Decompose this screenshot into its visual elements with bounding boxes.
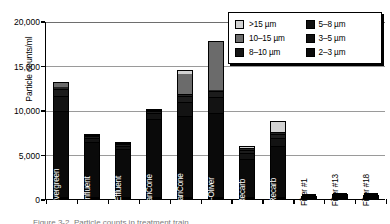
x-axis-category-label: Filter #18: [362, 174, 370, 206]
bar-group[interactable]: RM Effluent: [108, 22, 139, 199]
x-axis-tick-mark: [355, 199, 356, 204]
x-axis-category-label: W. ClariCone: [177, 173, 185, 219]
legend-swatch-icon: [235, 48, 244, 57]
y-axis-tick-label: 20,000: [0, 17, 40, 27]
bar-segment: [54, 97, 68, 112]
bar-segment: [54, 90, 68, 98]
bar-group[interactable]: E. ClariCone: [139, 22, 170, 199]
x-axis-category-label: RM Influent: [84, 176, 92, 216]
x-axis-tick-mark: [262, 199, 263, 204]
bar-group[interactable]: RM Influent: [77, 22, 108, 199]
x-axis-tick-mark: [108, 199, 109, 204]
legend-row: 10–15 µm 3–5 µm: [235, 31, 376, 45]
legend-label: >15 µm: [249, 20, 276, 29]
x-axis-category-label: W. Recarb: [270, 178, 278, 214]
bar-segment: [178, 74, 192, 96]
bar-group[interactable]: W. ClariCone: [170, 22, 201, 199]
legend-item-3-5: 3–5 µm: [306, 34, 377, 43]
x-axis-tick-mark: [170, 199, 171, 204]
x-axis-category-label: E. ClariCone: [146, 174, 154, 218]
legend-swatch-icon: [306, 48, 315, 57]
legend-item-2-3: 2–3 µm: [306, 48, 377, 57]
x-axis-tick-mark: [386, 199, 387, 204]
stacked-bar[interactable]: [208, 41, 224, 199]
bar-group[interactable]: Dorr-Oliver: [201, 22, 232, 199]
bar-segment: [271, 122, 285, 132]
chart-legend: >15 µm 5–8 µm 10–15 µm 3–5 µm 8–10 µm: [228, 12, 382, 64]
x-axis-category-label: Filter #13: [331, 174, 339, 206]
x-axis-tick-mark: [231, 199, 232, 204]
x-axis-category-label: Lake Evergreen: [53, 168, 61, 223]
x-axis-category-label: Filter #1: [301, 178, 309, 206]
legend-swatch-icon: [235, 20, 244, 29]
bar-segment: [209, 98, 223, 114]
figure-caption: Figure 3-2. Particle counts in treatment…: [33, 218, 189, 224]
legend-item-8-10: 8–10 µm: [235, 48, 306, 57]
legend-item-5-8: 5–8 µm: [306, 20, 377, 29]
legend-swatch-icon: [235, 34, 244, 43]
legend-label: 5–8 µm: [319, 20, 346, 29]
x-axis-tick-mark: [324, 199, 325, 204]
legend-swatch-icon: [306, 20, 315, 29]
x-axis-category-label: RM Effluent: [115, 176, 123, 216]
legend-swatch-icon: [306, 34, 315, 43]
x-axis-tick-mark: [201, 199, 202, 204]
bar-segment: [178, 103, 192, 116]
legend-label: 3–5 µm: [319, 34, 346, 43]
x-axis-category-label: E. Recarb: [239, 179, 247, 214]
legend-item-10-15: 10–15 µm: [235, 34, 306, 43]
legend-row: >15 µm 5–8 µm: [235, 17, 376, 31]
x-axis-tick-mark: [139, 199, 140, 204]
legend-label: 8–10 µm: [249, 48, 280, 57]
legend-label: 2–3 µm: [319, 48, 346, 57]
bar-segment: [209, 42, 223, 89]
bar-segment: [271, 139, 285, 147]
x-axis-category-label: Dorr-Oliver: [208, 177, 216, 215]
legend-row: 8–10 µm 2–3 µm: [235, 45, 376, 59]
x-axis-tick-mark: [77, 199, 78, 204]
legend-item-gt15: >15 µm: [235, 20, 306, 29]
chart-figure: Particle counts/ml 05,00010,00015,00020,…: [0, 0, 390, 224]
x-axis-tick-mark: [46, 199, 47, 204]
legend-label: 10–15 µm: [249, 34, 285, 43]
y-axis-tick-label: 10,000: [0, 106, 40, 116]
x-axis-tick-mark: [293, 199, 294, 204]
bar-group[interactable]: Lake Evergreen: [46, 22, 77, 199]
y-axis-tick-label: 15,000: [0, 62, 40, 72]
y-axis-tick-label: 0: [0, 195, 40, 205]
y-axis-tick-label: 5,000: [0, 151, 40, 161]
